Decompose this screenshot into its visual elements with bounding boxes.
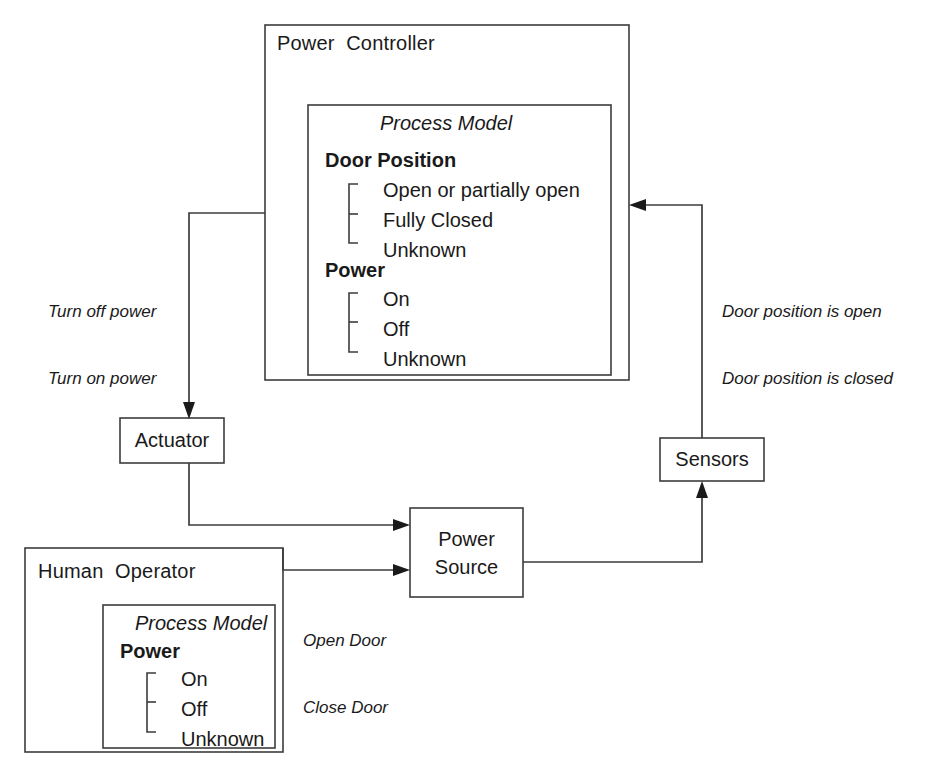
arrowhead-actuator-to-power-source (393, 519, 410, 531)
edge-label-feedback-0: Door position is open (722, 301, 893, 323)
actuator-label: Actuator (120, 430, 224, 450)
controller-power-item-1: Off (383, 319, 409, 339)
operator-power-item-2: Unknown (181, 729, 264, 749)
sensors-label: Sensors (660, 449, 764, 469)
edge-label-feedback: Door position is open Door position is c… (722, 256, 893, 436)
edge-label-control-action-1: Turn on power (48, 368, 156, 390)
connector-actuator-to-power-source (189, 463, 401, 525)
edge-label-operator-action-0: Open Door (303, 630, 388, 652)
controller-door-position-item-0: Open or partially open (383, 180, 580, 200)
edge-label-operator-actions: Open Door Close Door (303, 585, 388, 765)
controller-door-position-item-2: Unknown (383, 240, 466, 260)
operator-power-item-1: Off (181, 699, 207, 719)
controller-door-position-item-1: Fully Closed (383, 210, 493, 230)
edge-label-control-action-0: Turn off power (48, 301, 156, 323)
arrowhead-controller-to-actuator (183, 402, 195, 419)
edge-label-control-actions: Turn off power Turn on power (48, 256, 156, 436)
connector-sensors-to-controller (638, 205, 702, 438)
operator-process-model-title: Process Model (135, 613, 267, 633)
controller-power-item-0: On (383, 289, 410, 309)
controller-process-model-title: Process Model (380, 113, 512, 133)
edge-label-feedback-1: Door position is closed (722, 368, 893, 390)
controller-group-power: Power (325, 260, 385, 280)
operator-power-item-0: On (181, 669, 208, 689)
arrowhead-sensors-to-controller (629, 199, 646, 211)
control-loop-diagram: Power Controller Process Model Door Posi… (0, 0, 940, 782)
power-source-label-line2: Source (410, 557, 523, 577)
power-source-label-line1: Power (410, 529, 523, 549)
controller-group-door-position: Door Position (325, 150, 456, 170)
human-operator-title: Human Operator (38, 561, 196, 581)
arrowhead-operator-to-power-source (393, 564, 410, 576)
connector-power-source-to-sensors (523, 490, 702, 562)
operator-group-power: Power (120, 641, 180, 661)
arrowhead-power-source-to-sensors (696, 481, 708, 498)
controller-power-item-2: Unknown (383, 349, 466, 369)
power-controller-title: Power Controller (277, 33, 435, 53)
edge-label-operator-action-1: Close Door (303, 697, 388, 719)
connector-controller-to-actuator (189, 213, 265, 410)
connector-operator-to-power-source (283, 548, 401, 570)
power-source-box (410, 508, 523, 597)
